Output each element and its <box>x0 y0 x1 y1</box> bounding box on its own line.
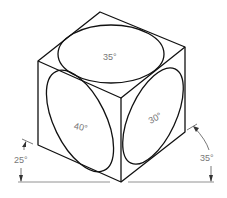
right-arrowhead-lower <box>209 175 213 182</box>
right-angle-label: 35° <box>200 153 214 163</box>
cube-ellipse-diagram: 35° 40° 30° 25° 35° <box>0 0 227 198</box>
left-arrowhead-lower <box>19 175 23 182</box>
left-arrowhead-upper <box>22 141 26 147</box>
cube-outline <box>38 12 185 182</box>
left-face-angle-label: 40° <box>73 121 89 134</box>
left-extension-line <box>22 139 33 144</box>
left-angle-label: 25° <box>14 155 28 165</box>
right-face-angle-label: 30° <box>147 110 164 125</box>
top-face-angle-label: 35° <box>103 52 117 62</box>
